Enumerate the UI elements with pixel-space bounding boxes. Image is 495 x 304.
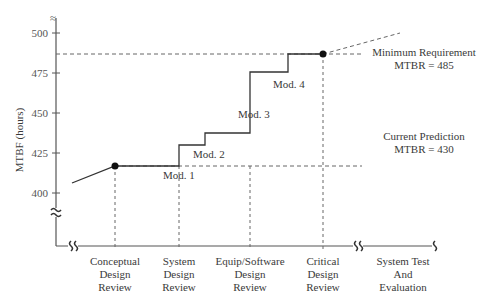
- mod-2-label: Mod. 2: [193, 148, 225, 160]
- milestone-critical-design: Critical Design Review: [306, 255, 340, 293]
- y-tick-450: 450: [32, 107, 49, 119]
- y-axis-break-top: ≈: [50, 12, 56, 24]
- svg-text:Review: Review: [162, 281, 196, 293]
- svg-text:Design: Design: [234, 268, 266, 280]
- svg-text:System: System: [163, 255, 196, 267]
- milestone-conceptual: Conceptual Design Review: [90, 255, 140, 293]
- svg-text:And: And: [394, 268, 413, 280]
- svg-text:Review: Review: [98, 281, 132, 293]
- x-axis-break-icon-2: [353, 240, 363, 252]
- y-tick-425: 425: [32, 147, 49, 159]
- critical-review-point: [320, 51, 327, 58]
- y-axis-break-icon: [51, 208, 61, 217]
- mtbf-growth-line: [72, 54, 323, 183]
- y-axis-label: MTBF (hours): [13, 107, 26, 172]
- svg-text:Design: Design: [163, 268, 195, 280]
- y-tick-400: 400: [32, 187, 49, 199]
- current-prediction-label: Current Prediction: [383, 130, 465, 142]
- svg-text:System Test: System Test: [376, 255, 429, 267]
- svg-text:Review: Review: [233, 281, 267, 293]
- x-axis-end-break-icon: [434, 241, 437, 251]
- minimum-requirement-label: Minimum Requirement: [372, 46, 476, 58]
- mtbf-chart: ≈ 500 475 450 425 400 MTBF (hours): [0, 0, 495, 304]
- y-tick-500: 500: [32, 27, 49, 39]
- svg-text:Design: Design: [99, 268, 131, 280]
- y-tick-475: 475: [32, 67, 49, 79]
- milestone-system-design: System Design Review: [162, 255, 196, 293]
- milestone-equip-software: Equip/Software Design Review: [215, 255, 284, 293]
- x-axis-break-icon: [68, 240, 78, 252]
- svg-text:Design: Design: [307, 268, 339, 280]
- svg-text:Review: Review: [306, 281, 340, 293]
- current-prediction-value: MTBR = 430: [394, 143, 454, 155]
- mod-1-label: Mod. 1: [163, 169, 195, 181]
- svg-text:Evaluation: Evaluation: [379, 281, 427, 293]
- svg-text:Conceptual: Conceptual: [90, 255, 140, 267]
- svg-text:Equip/Software: Equip/Software: [215, 255, 284, 267]
- minimum-requirement-value: MTBR = 485: [394, 59, 454, 71]
- svg-text:Critical: Critical: [307, 255, 340, 267]
- milestone-system-test: System Test And Evaluation: [376, 255, 429, 293]
- mod-3-label: Mod. 3: [238, 108, 270, 120]
- conceptual-review-point: [112, 163, 119, 170]
- mod-4-label: Mod. 4: [273, 78, 305, 90]
